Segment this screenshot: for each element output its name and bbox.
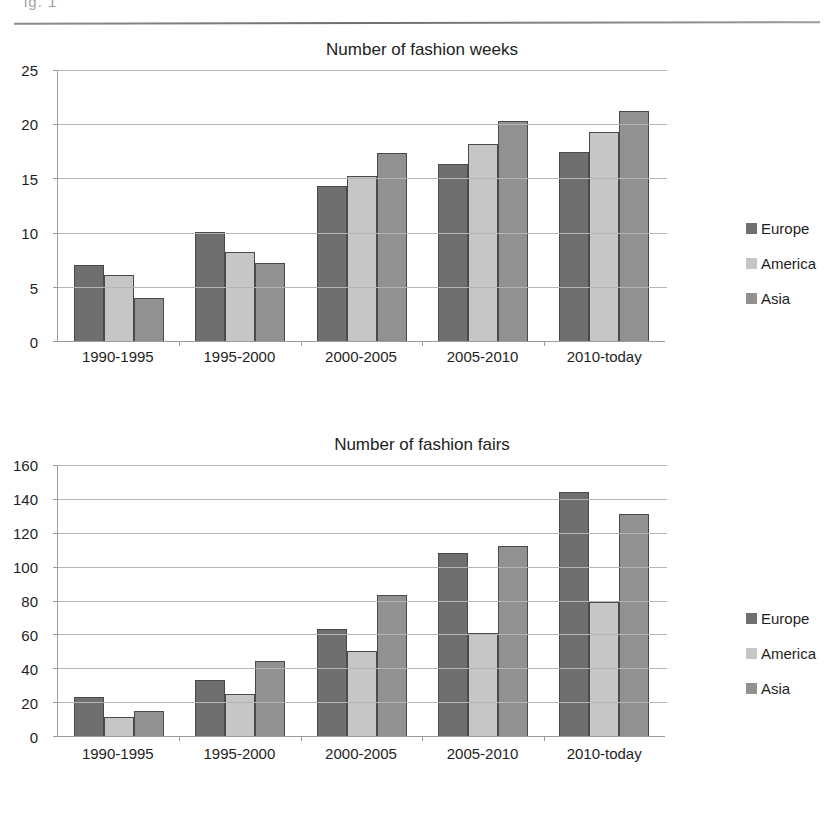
bar-america [468, 144, 498, 341]
y-tick-mark [53, 567, 58, 568]
bar-europe [74, 265, 104, 341]
bar-asia [134, 711, 164, 736]
bar-europe [438, 553, 468, 736]
bar-america [104, 717, 134, 736]
bar-group [179, 70, 300, 341]
x-tick-mark [422, 736, 423, 741]
bar-group [58, 70, 179, 341]
x-tick-label: 2000-2005 [300, 745, 422, 762]
legend-swatch-icon [746, 648, 757, 659]
legend-label: Europe [761, 610, 809, 627]
gridline [58, 287, 667, 288]
bar-asia [619, 111, 649, 341]
bar-asia [134, 298, 164, 341]
y-tick-label: 15 [21, 170, 38, 187]
bar-america [589, 132, 619, 341]
y-tick-mark [53, 341, 58, 342]
legend-item-europe[interactable]: Europe [746, 220, 816, 237]
y-tick-mark [53, 178, 58, 179]
bar-europe [559, 492, 589, 736]
bar-groups-fashion-weeks [58, 70, 665, 341]
bar-group [301, 70, 422, 341]
x-tick-mark [179, 341, 180, 346]
legend-fashion-weeks: EuropeAmericaAsia [746, 220, 816, 307]
bar-america [347, 176, 377, 341]
x-axis-fashion-fairs: 1990-19951995-20002000-20052005-20102010… [57, 745, 665, 762]
y-tick-label: 160 [13, 457, 38, 474]
x-tick-label: 2000-2005 [300, 348, 422, 365]
plot-area-fashion-fairs [57, 465, 665, 737]
chart-fashion-fairs: Number of fashion fairs 0204060801001201… [0, 435, 834, 820]
bar-group [544, 70, 665, 341]
legend-item-asia[interactable]: Asia [746, 680, 816, 697]
y-tick-label: 120 [13, 525, 38, 542]
legend-swatch-icon [746, 258, 757, 269]
legend-label: Asia [761, 290, 790, 307]
chart-fashion-weeks: Number of fashion weeks 0510152025 1990-… [0, 40, 834, 420]
y-axis-fashion-fairs: 020406080100120140160 [0, 465, 44, 737]
bar-europe [559, 152, 589, 341]
x-tick-mark [179, 736, 180, 741]
x-tick-label: 2005-2010 [422, 745, 544, 762]
header-divider-rule [14, 21, 820, 25]
bar-asia [498, 121, 528, 341]
y-tick-mark [53, 499, 58, 500]
y-tick-mark [53, 533, 58, 534]
bar-group [422, 70, 543, 341]
plot-area-fashion-weeks [57, 70, 665, 342]
gridline [58, 533, 667, 534]
y-tick-label: 20 [21, 116, 38, 133]
plot-wrap-fashion-fairs: 020406080100120140160 [0, 465, 834, 737]
gridline [58, 668, 667, 669]
bar-europe [317, 629, 347, 736]
legend-swatch-icon [746, 223, 757, 234]
x-tick-mark [301, 736, 302, 741]
y-tick-label: 60 [21, 627, 38, 644]
gridline [58, 499, 667, 500]
x-tick-label: 1995-2000 [179, 745, 301, 762]
bar-asia [255, 661, 285, 736]
y-tick-label: 0 [30, 334, 38, 351]
y-tick-mark [53, 702, 58, 703]
gridline [58, 634, 667, 635]
gridline [58, 702, 667, 703]
y-tick-label: 40 [21, 661, 38, 678]
x-tick-mark [544, 736, 545, 741]
bar-asia [377, 595, 407, 736]
gridline [58, 233, 667, 234]
x-axis-fashion-weeks: 1990-19951995-20002000-20052005-20102010… [57, 348, 665, 365]
x-tick-label: 2005-2010 [422, 348, 544, 365]
scan-artifact-text: ig. 1 [24, 0, 57, 10]
legend-label: Europe [761, 220, 809, 237]
bar-america [468, 633, 498, 736]
legend-fashion-fairs: EuropeAmericaAsia [746, 610, 816, 697]
legend-swatch-icon [746, 613, 757, 624]
chart-title-fashion-weeks: Number of fashion weeks [0, 40, 834, 60]
gridline [58, 70, 667, 71]
chart-body-fashion-fairs: 020406080100120140160 1990-19951995-2000… [0, 465, 834, 737]
legend-swatch-icon [746, 293, 757, 304]
y-tick-label: 10 [21, 225, 38, 242]
plot-wrap-fashion-weeks: 0510152025 [0, 70, 834, 342]
gridline [58, 178, 667, 179]
legend-item-europe[interactable]: Europe [746, 610, 816, 627]
bar-europe [195, 680, 225, 736]
legend-item-america[interactable]: America [746, 255, 816, 272]
x-tick-label: 1990-1995 [57, 745, 179, 762]
y-tick-label: 5 [30, 279, 38, 296]
legend-swatch-icon [746, 683, 757, 694]
legend-label: America [761, 255, 816, 272]
bar-asia [377, 153, 407, 341]
legend-label: Asia [761, 680, 790, 697]
x-tick-mark [544, 341, 545, 346]
y-tick-mark [53, 736, 58, 737]
y-tick-label: 80 [21, 593, 38, 610]
chart-title-fashion-fairs: Number of fashion fairs [0, 435, 834, 455]
y-tick-label: 20 [21, 695, 38, 712]
y-tick-mark [53, 601, 58, 602]
x-tick-label: 2010-today [543, 348, 665, 365]
legend-item-america[interactable]: America [746, 645, 816, 662]
y-tick-mark [53, 233, 58, 234]
legend-item-asia[interactable]: Asia [746, 290, 816, 307]
y-axis-fashion-weeks: 0510152025 [0, 70, 44, 342]
